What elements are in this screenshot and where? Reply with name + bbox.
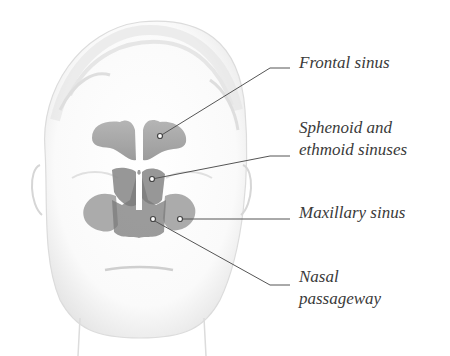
label-sphenoid-ethmoid-sinuses: Sphenoid and ethmoid sinuses — [299, 117, 407, 161]
sinus-diagram: Frontal sinus Sphenoid and ethmoid sinus… — [0, 0, 450, 356]
label-sphenoid-line2: ethmoid sinuses — [299, 139, 407, 161]
dot-nasal — [151, 217, 156, 222]
label-nasal-line1: Nasal — [299, 266, 381, 288]
label-nasal-passageway: Nasal passageway — [299, 266, 381, 310]
label-frontal-line1: Frontal sinus — [299, 53, 390, 72]
label-maxillary-sinus: Maxillary sinus — [299, 202, 405, 224]
dot-sphenoid-ethmoid — [150, 177, 155, 182]
label-nasal-line2: passageway — [299, 288, 381, 310]
label-sphenoid-line1: Sphenoid and — [299, 117, 407, 139]
label-frontal-sinus: Frontal sinus — [299, 52, 390, 74]
dot-frontal — [158, 134, 163, 139]
label-maxillary-line1: Maxillary sinus — [299, 203, 405, 222]
dot-maxillary — [178, 217, 183, 222]
